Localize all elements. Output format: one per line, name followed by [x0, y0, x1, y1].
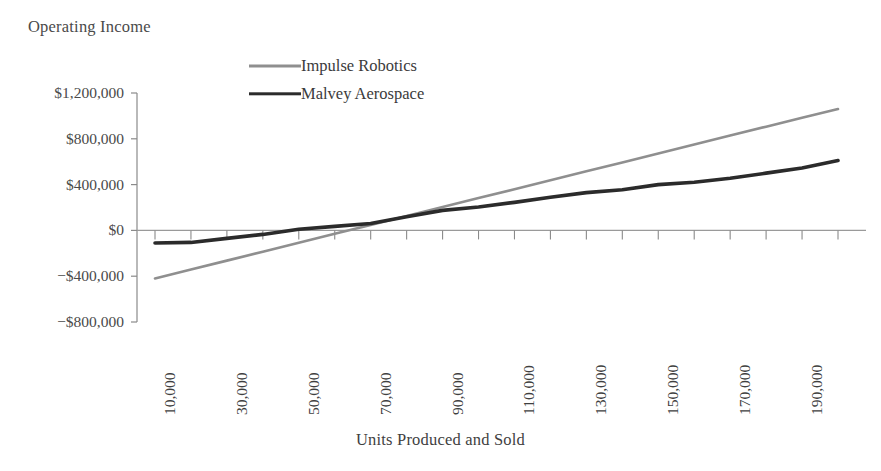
x-axis-tick-labels: 10,00030,00050,00070,00090,000110,000130…	[0, 0, 881, 471]
x-axis-tick-label: 150,000	[664, 365, 682, 415]
x-axis-tick-label: 130,000	[592, 365, 610, 415]
x-axis-title: Units Produced and Sold	[0, 430, 881, 450]
x-axis-tick-label: 110,000	[520, 365, 538, 415]
x-axis-tick-label: 170,000	[736, 365, 754, 415]
x-axis-tick-label: 90,000	[449, 372, 467, 415]
operating-income-line-chart: Operating Income Impulse Robotics Malvey…	[0, 0, 881, 471]
x-axis-tick-label: 50,000	[305, 372, 323, 415]
x-axis-tick-label: 70,000	[377, 372, 395, 415]
x-axis-tick-label: 190,000	[808, 365, 826, 415]
x-axis-tick-label: 30,000	[233, 372, 251, 415]
x-axis-tick-label: 10,000	[161, 372, 179, 415]
